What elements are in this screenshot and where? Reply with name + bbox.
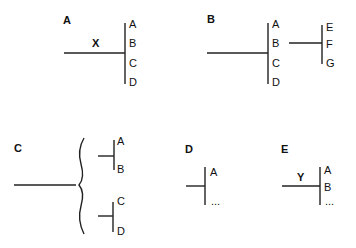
panel-c-upper-node-1: B — [117, 163, 124, 175]
panel-b-node-3: D — [272, 76, 280, 88]
panel-b-sub-node-1: F — [326, 38, 333, 50]
panel-b-node-1: B — [272, 37, 279, 49]
panel-a-edge-label: X — [92, 37, 100, 49]
panel-b-node-0: A — [272, 18, 280, 30]
panel-b-sub-node-0: E — [326, 21, 333, 33]
panel-c-lower-node-1: D — [117, 225, 125, 237]
panel-e-node-0: A — [324, 164, 332, 176]
panel-b-node-2: C — [272, 57, 280, 69]
brace-icon — [79, 138, 84, 234]
panel-d: D A ... — [185, 143, 220, 207]
panel-b-label: B — [207, 13, 215, 25]
panel-a-node-2: C — [129, 57, 137, 69]
panel-c-label: C — [14, 142, 22, 154]
panel-e-node-1: B — [324, 181, 331, 193]
panel-d-label: D — [185, 143, 193, 155]
panel-c-lower-node-0: C — [117, 195, 125, 207]
panel-b-sub-node-2: G — [326, 57, 335, 69]
panel-d-node-0: A — [210, 166, 218, 178]
panel-a-node-1: B — [129, 37, 136, 49]
panel-b: B A B C D E F G — [207, 13, 335, 88]
panel-a-label: A — [63, 14, 71, 26]
panel-e: E Y A B ... — [281, 143, 334, 207]
panel-d-node-ellipsis: ... — [211, 195, 220, 207]
panel-a-node-3: D — [129, 76, 137, 88]
panel-a-node-0: A — [129, 18, 137, 30]
panel-e-edge-label: Y — [297, 171, 305, 183]
tree-diagram: A X A B C D B A B C D E F G C A B C D — [0, 0, 356, 248]
panel-a: A X A B C D — [63, 14, 137, 88]
panel-c-upper-node-0: A — [117, 135, 125, 147]
panel-c: C A B C D — [14, 135, 125, 237]
panel-e-node-ellipsis: ... — [325, 195, 334, 207]
panel-e-label: E — [281, 143, 288, 155]
